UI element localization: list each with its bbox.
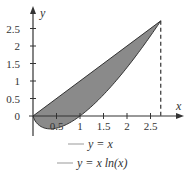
plot-area — [33, 21, 161, 129]
x-tick-label: 0.5 — [50, 120, 64, 132]
x-tick-label: 2 — [124, 120, 130, 132]
y-tick-label: 1 — [15, 75, 21, 87]
x-tick-label: 1.5 — [97, 120, 111, 132]
legend-label: y = x — [87, 137, 113, 151]
y-axis-label: y — [39, 6, 46, 20]
legend: y = xy = x ln(x) — [57, 137, 127, 170]
y-tick-label: 0.5 — [6, 93, 20, 105]
y-axis-arrow-icon — [30, 6, 36, 14]
y-tick-label: 0 — [15, 110, 21, 122]
chart: xy0.511.522.500.511.522.5 y = xy = x ln(… — [0, 0, 187, 179]
x-axis-label: x — [175, 99, 182, 113]
x-tick-label: 1 — [77, 120, 83, 132]
x-axis-arrow-icon — [176, 113, 184, 119]
x-tick-label: 2.5 — [144, 120, 158, 132]
y-tick-label: 2.5 — [6, 23, 20, 35]
y-tick-label: 2 — [15, 40, 21, 52]
shaded-region — [33, 21, 161, 129]
y-tick-label: 1.5 — [6, 58, 20, 70]
legend-label: y = x ln(x) — [76, 156, 127, 170]
